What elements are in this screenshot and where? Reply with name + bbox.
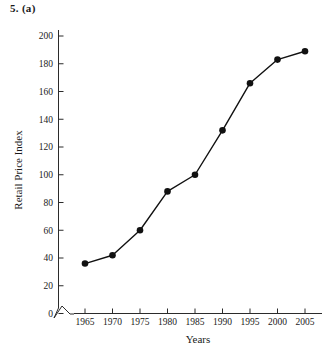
y-tick-label: 40 xyxy=(44,253,54,263)
data-line-retail-price-index xyxy=(85,51,305,263)
x-tick-label: 1970 xyxy=(103,317,122,327)
y-tick-label: 0 xyxy=(48,309,53,319)
data-point xyxy=(137,227,144,234)
y-tick-label: 80 xyxy=(44,198,54,208)
x-tick-label: 1965 xyxy=(76,317,95,327)
y-tick-label: 200 xyxy=(39,31,54,41)
axis-break-icon xyxy=(54,305,74,318)
y-tick-label: 140 xyxy=(39,115,54,125)
y-tick-label: 160 xyxy=(39,87,54,97)
data-point xyxy=(164,188,171,195)
data-point xyxy=(219,127,226,134)
x-tick-label: 1980 xyxy=(158,317,177,327)
y-tick-label: 180 xyxy=(39,59,54,69)
x-tick-label: 1985 xyxy=(186,317,205,327)
retail-price-index-line-chart: 020406080100120140160180200 196519701975… xyxy=(0,0,328,350)
x-tick-label: 2000 xyxy=(268,317,287,327)
x-tick-group: 196519701975198019851990199520002005 xyxy=(76,309,315,328)
y-axis-title: Retail Price Index xyxy=(12,130,24,210)
data-point xyxy=(109,252,116,259)
y-tick-group: 020406080100120140160180200 xyxy=(39,31,64,319)
y-tick-label: 100 xyxy=(39,170,54,180)
data-point xyxy=(302,48,309,55)
x-axis-title: Years xyxy=(186,333,211,345)
data-point xyxy=(274,56,281,63)
x-tick-label: 1995 xyxy=(241,317,260,327)
x-tick-label: 1990 xyxy=(213,317,232,327)
data-point-group xyxy=(82,48,309,267)
data-point xyxy=(82,260,89,267)
y-tick-label: 20 xyxy=(44,281,54,291)
x-tick-label: 2005 xyxy=(296,317,315,327)
y-tick-label: 120 xyxy=(39,142,54,152)
data-point xyxy=(192,171,199,178)
data-point xyxy=(247,80,254,87)
x-tick-label: 1975 xyxy=(131,317,150,327)
y-tick-label: 60 xyxy=(44,226,54,236)
